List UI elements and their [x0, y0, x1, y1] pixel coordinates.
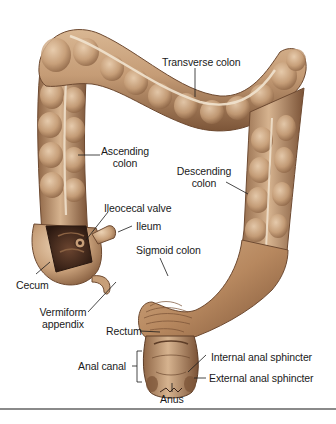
- label-ileum: Ileum: [136, 220, 161, 232]
- label-anus: Anus: [160, 393, 184, 405]
- label-sigmoid-colon: Sigmoid colon: [136, 244, 201, 256]
- large-intestine-diagram: Transverse colon Ascending colon Descend…: [0, 0, 336, 424]
- label-ileocecal-valve: Ileocecal valve: [104, 202, 171, 214]
- label-ascending-colon-line2: colon: [100, 157, 150, 169]
- label-descending-colon-line1: Descending: [174, 165, 234, 177]
- rectum-shape: [143, 336, 198, 398]
- label-vermiform-appendix-line2: appendix: [38, 318, 88, 330]
- label-vermiform-appendix-line1: Vermiform: [38, 306, 88, 318]
- label-ascending-colon: Ascending colon: [100, 145, 150, 169]
- label-anal-canal: Anal canal: [78, 360, 126, 372]
- bottom-divider: [0, 408, 336, 410]
- label-descending-colon-line2: colon: [174, 177, 234, 189]
- descending-colon-shape: [240, 88, 304, 262]
- label-cecum: Cecum: [16, 279, 49, 291]
- label-ascending-colon-line1: Ascending: [100, 145, 150, 157]
- label-internal-anal-sphincter: Internal anal sphincter: [211, 351, 312, 363]
- label-external-anal-sphincter: External anal sphincter: [209, 372, 314, 384]
- label-rectum: Rectum: [106, 325, 142, 337]
- label-transverse-colon: Transverse colon: [162, 56, 241, 68]
- label-descending-colon: Descending colon: [174, 165, 234, 189]
- label-vermiform-appendix: Vermiform appendix: [38, 306, 88, 330]
